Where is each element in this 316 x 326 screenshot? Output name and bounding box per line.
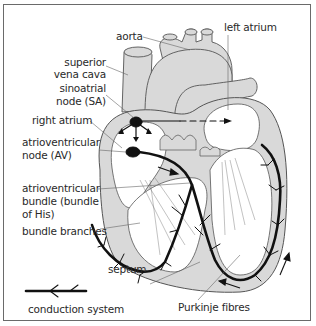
label-av-bundle-3: of His) bbox=[22, 208, 54, 221]
label-av-node-1: atrioventricular bbox=[22, 136, 100, 149]
label-av-node-2: node (AV) bbox=[22, 149, 72, 162]
legend-conduction-symbol bbox=[26, 285, 86, 297]
label-aorta: aorta bbox=[116, 30, 143, 43]
label-sinoatrial-node-1: sinoatrial bbox=[59, 82, 106, 95]
label-purkinje-fibres: Purkinje fibres bbox=[178, 301, 250, 314]
label-bundle-branches: bundle branches bbox=[22, 225, 107, 238]
label-superior-vena-cava-2: vena cava bbox=[54, 68, 106, 81]
label-av-bundle-2: bundle (bundle bbox=[22, 195, 99, 208]
label-left-atrium: left atrium bbox=[224, 21, 277, 34]
label-septum: septum bbox=[108, 263, 146, 276]
label-right-atrium: right atrium bbox=[32, 114, 92, 127]
legend-label: conduction system bbox=[28, 303, 124, 316]
label-av-bundle-1: atrioventricular bbox=[22, 182, 100, 195]
heart-diagram bbox=[0, 0, 316, 326]
label-sinoatrial-node-2: node (SA) bbox=[56, 95, 106, 108]
